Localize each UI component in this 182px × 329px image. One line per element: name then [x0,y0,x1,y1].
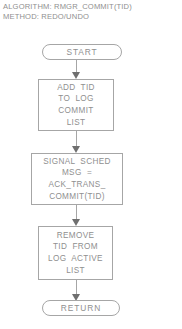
flowchart-canvas: ALGORITHM: RMGR_COMMIT(TID) METHOD: REDO… [0,0,182,329]
connector-remove-to-return [76,280,77,295]
process-line: TID FROM [53,241,98,253]
arrowhead-down-icon [72,72,80,79]
algorithm-header: ALGORITHM: RMGR_COMMIT(TID) METHOD: REDO… [3,2,132,21]
arrowhead-down-icon [72,146,80,153]
algorithm-title: ALGORITHM: RMGR_COMMIT(TID) [3,2,132,12]
process-signal-sched: SIGNAL SCHED MSG = ACK_TRANS_ COMMIT(TID… [31,153,123,205]
process-remove-tid-from-log-active-list: REMOVE TID FROM LOG ACTIVE LIST [38,226,113,280]
return-terminal: RETURN [42,300,120,316]
process-line: MSG = [62,167,92,179]
method-subtitle: METHOD: REDO/UNDO [3,12,132,22]
process-line: COMMIT [58,105,93,117]
process-line: TO LOG [58,93,94,105]
process-add-tid-to-log-commit-list: ADD TID TO LOG COMMIT LIST [38,79,114,131]
start-terminal: START [42,44,122,60]
arrowhead-down-icon [72,219,80,226]
process-line: COMMIT(TID) [49,191,105,203]
process-line: LIST [67,117,86,129]
process-line: SIGNAL SCHED [43,156,111,168]
process-line: REMOVE [57,230,95,242]
connector-signal-to-remove [76,205,77,220]
process-line: ADD TID [57,82,95,94]
process-line: LIST [66,265,85,277]
connector-add-to-signal [76,131,77,147]
process-line: LOG ACTIVE [48,253,103,265]
process-line: ACK_TRANS_ [48,179,105,191]
